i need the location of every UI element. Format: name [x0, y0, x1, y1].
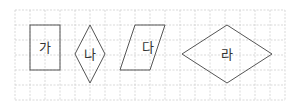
label-ga: 가 [39, 40, 51, 55]
dashed-grid [15, 10, 285, 100]
label-da: 다 [142, 40, 154, 55]
label-ra: 라 [221, 47, 233, 62]
label-na: 나 [84, 47, 96, 62]
shape-grid-diagram: 가 나 다 라 [0, 0, 300, 106]
